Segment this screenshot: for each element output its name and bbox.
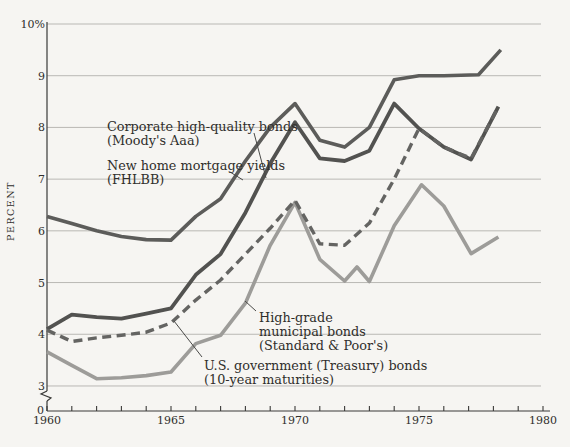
annotation-municipal-line-1: High-grade [259, 310, 333, 325]
annotation-treasury-line-2: (10-year maturities) [204, 372, 334, 387]
annotation-municipal-line-2: municipal bonds [259, 324, 366, 339]
y-axis-label-6: 6 [38, 225, 45, 238]
annotation-treasury-line-1: U.S. government (Treasury) bonds [204, 358, 427, 373]
annotation-mortgage-line-2: (FHLBB) [107, 172, 164, 187]
x-axis-label-1960: 1960 [33, 414, 61, 427]
y-axis-label-8: 8 [38, 121, 45, 134]
annotation-municipal-line-3: (Standard & Poor's) [259, 338, 388, 353]
x-axis-label-1975: 1975 [405, 414, 433, 427]
y-axis-title-percent: PERCENT [5, 181, 16, 241]
bond-yield-chart: 10%9876543019601965197019751980PERCENTCo… [0, 0, 570, 447]
annotation-corporate-line-1: Corporate high-quality bonds [107, 119, 298, 134]
annotation-mortgage-line-1: New home mortgage yields [107, 158, 285, 173]
y-axis-label-9: 9 [38, 70, 45, 83]
bond-yield-chart-canvas: 10%9876543019601965197019751980PERCENTCo… [0, 0, 570, 447]
y-axis-label-3: 3 [38, 380, 45, 393]
y-axis-label-5: 5 [38, 277, 45, 290]
x-axis-label-1965: 1965 [157, 414, 185, 427]
annotation-corporate-line-2: (Moody's Aaa) [107, 133, 200, 148]
x-axis-label-1980: 1980 [529, 414, 557, 427]
y-axis-label-7: 7 [38, 173, 45, 186]
y-axis-label-10: 10% [21, 18, 45, 31]
x-axis-label-1970: 1970 [281, 414, 309, 427]
y-axis-label-4: 4 [38, 328, 45, 341]
